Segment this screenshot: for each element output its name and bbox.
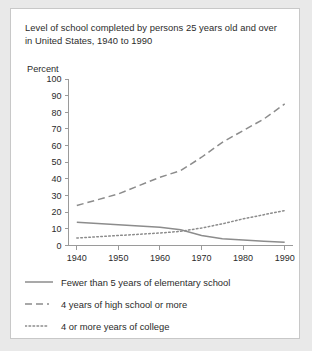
legend-swatch-dotted-icon [25,321,53,331]
y-axis-ticks: 0102030405060708090100 [46,74,68,251]
y-tick-label: 0 [56,241,61,251]
y-tick-label: 40 [51,174,61,184]
legend-swatch-solid-icon [25,277,53,287]
x-tick-label: 1980 [233,253,253,263]
y-tick-label: 10 [51,224,61,234]
x-tick-label: 1940 [67,253,87,263]
x-axis-ticks: 194019501960197019801990 [67,246,295,263]
y-tick-label: 70 [51,124,61,134]
y-tick-label: 90 [51,91,61,101]
y-tick-label: 80 [51,108,61,118]
y-tick-label: 30 [51,191,61,201]
x-tick-label: 1990 [275,253,295,263]
legend-label: Fewer than 5 years of elementary school [61,277,230,288]
y-tick-label: 60 [51,141,61,151]
legend-item-college: 4 or more years of college [25,315,287,337]
y-tick-label: 100 [46,74,61,84]
legend-label: 4 years of high school or more [61,299,187,310]
y-tick-label: 20 [51,207,61,217]
y-axis-group: 0102030405060708090100 [46,74,68,251]
x-tick-label: 1970 [192,253,212,263]
figure-card: Level of school completed by persons 25 … [10,8,300,339]
x-tick-label: 1960 [150,253,170,263]
legend-swatch-dashed-icon [25,299,53,309]
data-series-group [77,104,285,242]
legend-item-highschool: 4 years of high school or more [25,293,287,315]
series-line [77,222,285,242]
x-tick-label: 1950 [108,253,128,263]
series-line [77,104,285,206]
x-axis-group: 194019501960197019801990 [67,246,295,263]
legend-item-elementary: Fewer than 5 years of elementary school [25,271,287,293]
y-tick-label: 50 [51,157,61,167]
chart-legend: Fewer than 5 years of elementary school … [25,271,287,337]
legend-label: 4 or more years of college [61,321,169,332]
